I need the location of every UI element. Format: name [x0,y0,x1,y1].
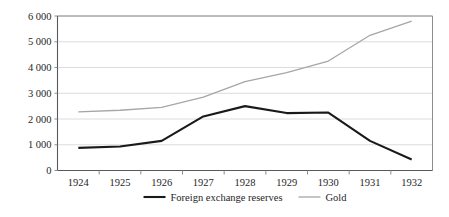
legend-label-foreign-exchange-reserves: Foreign exchange reserves [171,192,283,203]
y-axis-tick-label: 0 [46,165,51,176]
y-axis-tick-label: 5 000 [28,36,52,47]
y-axis-tick-label: 2 000 [28,114,52,125]
x-axis-tick-label: 1929 [276,177,297,188]
x-axis-tick-label: 1924 [68,177,90,188]
x-axis-tick-label: 1925 [110,177,131,188]
x-axis-tick-label: 1926 [151,177,172,188]
y-axis-tick-label: 6 000 [28,11,52,22]
x-axis-tick-label: 1932 [401,177,422,188]
y-axis-tick-label: 4 000 [28,62,52,73]
legend-label-gold: Gold [325,192,347,203]
x-axis-tick-label: 1930 [318,177,339,188]
x-axis-tick-label: 1928 [235,177,256,188]
x-axis-tick-label: 1927 [193,177,214,188]
chart-container: 01 0002 0003 0004 0005 0006 000 19241925… [0,0,449,217]
line-chart: 01 0002 0003 0004 0005 0006 000 19241925… [0,0,449,217]
y-axis-tick-label: 1 000 [28,139,52,150]
x-axis-tick-label: 1931 [360,177,381,188]
y-axis-tick-label: 3 000 [28,88,52,99]
